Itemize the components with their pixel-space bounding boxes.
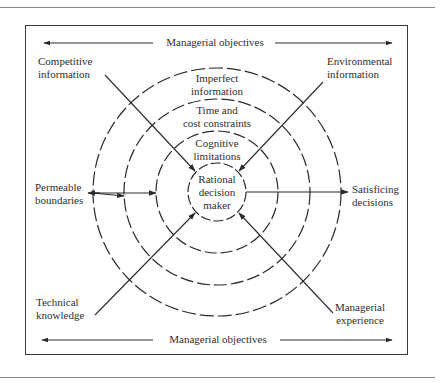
- permeable-line-1: Permeable: [35, 181, 83, 194]
- satisficing-line-1: Satisficing: [352, 183, 399, 196]
- environmental-information-label: Environmental information: [327, 55, 392, 81]
- experience-line-1: Managerial: [330, 301, 390, 314]
- technical-line-2: knowledge: [36, 309, 84, 322]
- competitive-line-1: Competitive: [38, 55, 92, 68]
- time-line-1: Time and: [167, 104, 267, 117]
- permeable-boundaries-label: Permeable boundaries: [35, 181, 83, 207]
- imperfect-line-2: information: [177, 85, 257, 98]
- time-line-2: cost constraints: [167, 117, 267, 130]
- cognitive-line-2: limitations: [177, 150, 257, 163]
- cognitive-limitations-label: Cognitive limitations: [177, 137, 257, 163]
- top-objectives-label: Managerial objectives: [160, 36, 270, 49]
- experience-line-2: experience: [330, 314, 390, 327]
- imperfect-information-label: Imperfect information: [177, 72, 257, 98]
- center-line-2: decision: [187, 186, 247, 199]
- satisficing-line-2: decisions: [352, 196, 399, 209]
- imperfect-line-1: Imperfect: [177, 72, 257, 85]
- competitive-information-label: Competitive information: [38, 55, 92, 81]
- center-line-1: Rational: [187, 173, 247, 186]
- bottom-objectives-label: Managerial objectives: [162, 333, 274, 346]
- center-line-3: maker: [187, 199, 247, 212]
- technical-line-1: Technical: [36, 296, 84, 309]
- managerial-experience-label: Managerial experience: [330, 301, 390, 327]
- cognitive-line-1: Cognitive: [177, 137, 257, 150]
- technical-arrow: [95, 213, 195, 315]
- technical-knowledge-label: Technical knowledge: [36, 296, 84, 322]
- satisficing-decisions-label: Satisficing decisions: [352, 183, 399, 209]
- permeable-line-2: boundaries: [35, 194, 83, 207]
- environmental-line-2: information: [327, 68, 392, 81]
- competitive-line-2: information: [38, 68, 92, 81]
- environmental-line-1: Environmental: [327, 55, 392, 68]
- time-cost-constraints-label: Time and cost constraints: [167, 104, 267, 130]
- rational-decision-maker-label: Rational decision maker: [187, 173, 247, 212]
